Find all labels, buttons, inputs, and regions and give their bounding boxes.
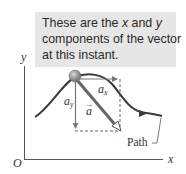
path-leader-line	[152, 118, 161, 143]
axes: y x O	[13, 50, 174, 170]
ax-label: ax	[98, 82, 108, 97]
ay-label: ay	[64, 94, 74, 109]
diagram-canvas: y x O ax ay a → Path	[0, 0, 186, 174]
path-label: Path	[127, 136, 148, 148]
particle-ball	[69, 70, 81, 82]
a-vector	[77, 80, 117, 127]
a-label-arrow-icon: →	[85, 100, 93, 109]
x-axis-label: x	[167, 152, 174, 166]
path-direction-arrow-icon	[139, 110, 147, 117]
origin-label: O	[13, 156, 22, 170]
y-axis-label: y	[20, 50, 27, 64]
